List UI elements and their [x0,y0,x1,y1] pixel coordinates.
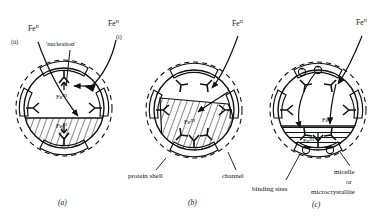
pathway-i-arrowhead-a [84,84,96,92]
label-protein-shell-b: protein shell [128,172,163,180]
caption-c: (c) [312,200,321,209]
label-path-ii-a: (ii) [11,39,18,46]
pathway-ii-arrow-a [38,42,78,116]
label-nucleation-a: 'nucleation' [46,40,75,47]
pathway-i-arrow-a [92,40,116,86]
label-fe2-right-a: FeII [108,19,119,28]
label-channel-b: channel [222,172,244,180]
figure-ferritin-core-formation: FeII (ii) FeII (i) 'nucleation' FeIII Fe… [0,0,388,218]
label-micelle-line2-c: or [346,178,353,186]
label-binding-sites-c: binding sites [252,185,288,193]
panel-a: FeII (ii) FeII (i) 'nucleation' FeIII Fe… [11,19,122,207]
fe2-entry-arrow-b [212,36,238,88]
diagram-canvas: FeII (ii) FeII (i) 'nucleation' FeIII Fe… [0,0,388,218]
label-fe2-left-a: FeII [28,24,39,33]
caption-a: (a) [58,198,67,207]
leader-protein-shell-b [156,158,166,170]
leader-channel-b [228,152,236,170]
label-micelle-line1-c: micelle [334,168,355,176]
label-fe3-mid-c: FeIII [322,116,333,124]
panel-b: FeII FeIII protein shell channel (b) [128,19,244,207]
caption-b: (b) [188,198,197,207]
label-micelle-line3-c: microcrystallite [311,188,355,196]
fe2-entry-arrow-c [338,36,362,84]
label-path-i-a: (i) [116,34,122,41]
leader-micelle-c [340,152,350,166]
label-fe2-top-c: FeII [356,18,367,27]
panel-c: FeII FeIII FeIII binding sites micelle o… [252,18,367,209]
label-fe2-top-b: FeII [232,19,243,28]
leader-binding-sites-c [286,154,300,180]
